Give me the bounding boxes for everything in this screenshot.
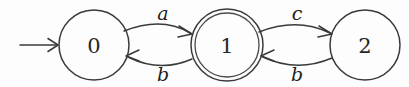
- transition-0-to-1: [124, 24, 192, 37]
- transition-label-b-left: b: [157, 63, 169, 85]
- state-1-label: 1: [220, 34, 233, 58]
- transition-label-b-right: b: [291, 63, 303, 85]
- state-2-label: 2: [358, 34, 371, 58]
- state-2[interactable]: 2: [330, 10, 400, 80]
- transition-label-c: c: [292, 2, 303, 24]
- finite-automaton-diagram: 0 1 2 a b c b: [0, 0, 409, 87]
- transition-label-a: a: [157, 2, 168, 24]
- state-1[interactable]: 1: [191, 9, 263, 81]
- state-0-label: 0: [87, 34, 100, 58]
- diagram-canvas: 0 1 2 a b c b: [0, 0, 409, 87]
- transition-1-to-2: [259, 25, 332, 37]
- start-arrow: [20, 39, 58, 52]
- state-0[interactable]: 0: [59, 10, 129, 80]
- transition-0-to-1-path: [124, 24, 190, 33]
